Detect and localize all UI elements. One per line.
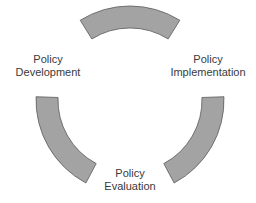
label-line: Policy xyxy=(102,167,158,180)
arc-left xyxy=(36,97,96,183)
label-policy-development: Policy Development xyxy=(13,53,83,79)
arc-top xyxy=(80,6,180,39)
label-policy-evaluation: Policy Evaluation xyxy=(102,167,158,193)
label-line: Policy xyxy=(13,53,83,66)
label-line: Implementation xyxy=(168,66,248,79)
label-policy-implementation: Policy Implementation xyxy=(168,53,248,79)
label-line: Evaluation xyxy=(102,180,158,193)
label-line: Development xyxy=(13,66,83,79)
policy-cycle-diagram: Policy Development Policy Implementation… xyxy=(0,0,256,203)
arc-right xyxy=(164,97,224,183)
label-line: Policy xyxy=(168,53,248,66)
